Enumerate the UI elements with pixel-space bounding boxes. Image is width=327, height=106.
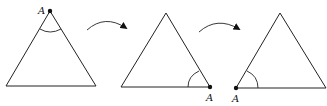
vertex-a-label: A — [205, 92, 213, 103]
angle-arc — [40, 29, 61, 32]
triangle-2: A — [121, 13, 213, 103]
vertex-a-label: A — [37, 5, 45, 16]
triangle-1: A — [6, 5, 96, 86]
curved-arrow-1 — [87, 21, 126, 30]
rotation-diagram: A A A — [0, 0, 327, 106]
triangle-3: A — [231, 13, 326, 104]
angle-arc — [188, 71, 199, 87]
vertex-a-point — [234, 86, 238, 90]
angle-arc — [247, 71, 258, 88]
vertex-a-label: A — [231, 93, 239, 104]
vertex-a-point — [208, 85, 212, 89]
curved-arrow-2 — [199, 23, 239, 32]
vertex-a-point — [48, 9, 52, 13]
